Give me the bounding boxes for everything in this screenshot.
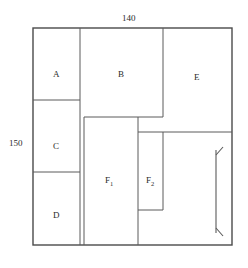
outer-boundary-rect xyxy=(33,28,232,245)
region-label-f2: F2 xyxy=(146,176,154,187)
partition-diagram: A C D B E F1 F2 140 150 xyxy=(0,0,248,268)
region-label-f2-subscript: 2 xyxy=(151,180,154,187)
region-label-b-text: B xyxy=(118,69,124,79)
region-label-a-text: A xyxy=(53,69,60,79)
region-label-c-text: C xyxy=(53,141,59,151)
region-label-d: D xyxy=(53,211,60,220)
region-label-c: C xyxy=(53,142,59,151)
region-label-d-text: D xyxy=(53,210,60,220)
vertical-dimension-arrow-head-top xyxy=(216,147,223,155)
diagram-svg xyxy=(0,0,248,268)
region-label-b: B xyxy=(118,70,124,79)
region-label-f1: F1 xyxy=(105,176,113,187)
region-label-e-text: E xyxy=(194,72,200,82)
dimension-label-left: 150 xyxy=(9,139,23,148)
region-label-f1-subscript: 1 xyxy=(110,180,113,187)
dimension-label-top: 140 xyxy=(122,14,136,23)
region-label-a: A xyxy=(53,70,60,79)
region-label-e: E xyxy=(194,73,200,82)
vertical-dimension-arrow-head-bottom xyxy=(216,228,223,236)
